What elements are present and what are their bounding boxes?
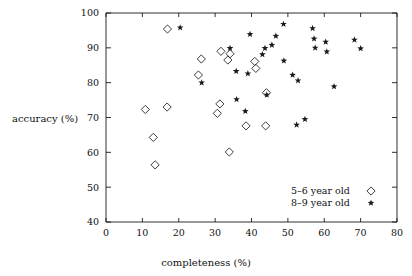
legend-label-8-9-year-old: 8–9 year old xyxy=(291,197,350,208)
y-tick-label-50: 50 xyxy=(87,182,99,193)
x-tick-label-20: 20 xyxy=(173,227,185,238)
y-axis-title: accuracy (%) xyxy=(12,113,78,124)
x-tick-label-50: 50 xyxy=(282,227,294,238)
scatter-plot-figure: 01020304050607080 405060708090100 accura… xyxy=(0,0,412,276)
x-tick-label-80: 80 xyxy=(391,227,403,238)
chart-background xyxy=(0,0,412,276)
y-tick-label-60: 60 xyxy=(87,147,99,158)
y-tick-label-80: 80 xyxy=(87,77,99,88)
y-tick-label-40: 40 xyxy=(87,216,99,227)
x-tick-label-0: 0 xyxy=(103,227,109,238)
y-tick-label-100: 100 xyxy=(81,7,99,18)
y-tick-label-90: 90 xyxy=(87,42,99,53)
y-tick-label-70: 70 xyxy=(87,112,99,123)
x-tick-label-10: 10 xyxy=(136,227,148,238)
legend-label-5-6-year-old: 5–6 year old xyxy=(291,185,350,196)
chart-canvas: 01020304050607080 405060708090100 accura… xyxy=(0,0,412,276)
x-axis-title: completeness (%) xyxy=(161,257,251,268)
x-tick-label-40: 40 xyxy=(245,227,257,238)
x-tick-label-70: 70 xyxy=(355,227,367,238)
x-tick-label-60: 60 xyxy=(318,227,330,238)
x-tick-label-30: 30 xyxy=(209,227,221,238)
x-axis-tick-labels: 01020304050607080 xyxy=(103,227,403,238)
